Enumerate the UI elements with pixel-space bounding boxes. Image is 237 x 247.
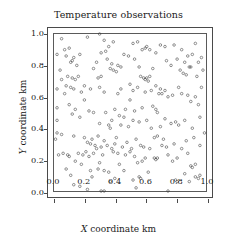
- y-tick-label: 0.8: [31, 60, 44, 70]
- x-tick: [208, 199, 209, 203]
- y-tick-label: 0.0: [31, 187, 44, 197]
- x-tick-label: 0.0: [46, 176, 59, 186]
- x-tick-label: 0.6: [139, 176, 152, 186]
- data-points-layer: [54, 34, 206, 191]
- y-axis-label: Y coordinate km: [18, 47, 28, 187]
- chart-title: Temperature observations: [0, 9, 237, 20]
- x-tick-label: 0.2: [77, 176, 90, 186]
- scatter-plot-figure: Temperature observations 0.00.20.40.60.8…: [0, 0, 237, 247]
- y-axis-label-rest: coordinate km: [18, 80, 28, 149]
- scatter-points-svg: [54, 34, 206, 191]
- y-tick: [44, 193, 48, 194]
- x-tick: [85, 199, 86, 203]
- x-tick-label: 0.4: [108, 176, 121, 186]
- y-axis-label-var: Y: [18, 148, 28, 154]
- x-axis-label-rest: coordinate km: [87, 224, 156, 234]
- plot-frame: [53, 33, 207, 192]
- axes-frame: [47, 27, 213, 198]
- x-tick: [54, 199, 55, 203]
- y-tick: [44, 161, 48, 162]
- y-tick-label: 0.4: [31, 123, 44, 133]
- x-tick: [116, 199, 117, 203]
- x-tick-label: 0.8: [170, 176, 183, 186]
- y-tick: [44, 34, 48, 35]
- y-tick: [44, 129, 48, 130]
- y-tick-label: 1.0: [31, 28, 44, 38]
- x-axis-label: X coordinate km: [0, 224, 237, 234]
- y-tick-label: 0.2: [31, 155, 44, 165]
- y-tick: [44, 98, 48, 99]
- x-tick: [146, 199, 147, 203]
- y-tick-label: 0.6: [31, 92, 44, 102]
- y-tick: [44, 66, 48, 67]
- x-tick: [177, 199, 178, 203]
- x-tick-label: 1.0: [200, 176, 213, 186]
